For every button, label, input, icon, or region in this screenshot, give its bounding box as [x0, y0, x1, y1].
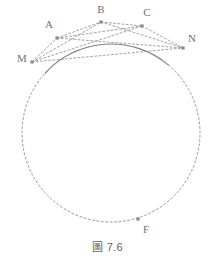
chord-group	[32, 22, 183, 62]
chord-m-a	[32, 38, 57, 62]
point-label-f: F	[143, 223, 149, 235]
point-label-a: A	[45, 18, 53, 30]
point-label-c: C	[143, 6, 150, 18]
chord-a-n	[57, 38, 183, 48]
vertex-point-b	[99, 20, 102, 23]
chord-c-n	[142, 26, 183, 48]
point-label-group: MABCNF	[17, 3, 196, 235]
geometry-diagram: MABCNF	[0, 0, 215, 240]
point-label-n: N	[188, 32, 196, 44]
vertex-point-a	[55, 36, 58, 39]
vertex-point-f	[136, 217, 139, 220]
vertex-group	[30, 20, 184, 220]
circle-group	[22, 65, 200, 222]
point-label-b: B	[97, 3, 104, 15]
figure-caption: 圖 7.6	[0, 238, 215, 254]
vertex-point-c	[140, 24, 143, 27]
dashed-circle-arc	[22, 65, 200, 222]
chord-m-n	[32, 48, 183, 62]
point-label-m: M	[17, 52, 27, 64]
figure-container: MABCNF 圖 7.6	[0, 0, 215, 262]
vertex-point-n	[181, 46, 184, 49]
chord-a-b	[57, 22, 101, 38]
chord-a-c	[57, 26, 142, 38]
vertex-point-m	[30, 60, 33, 63]
